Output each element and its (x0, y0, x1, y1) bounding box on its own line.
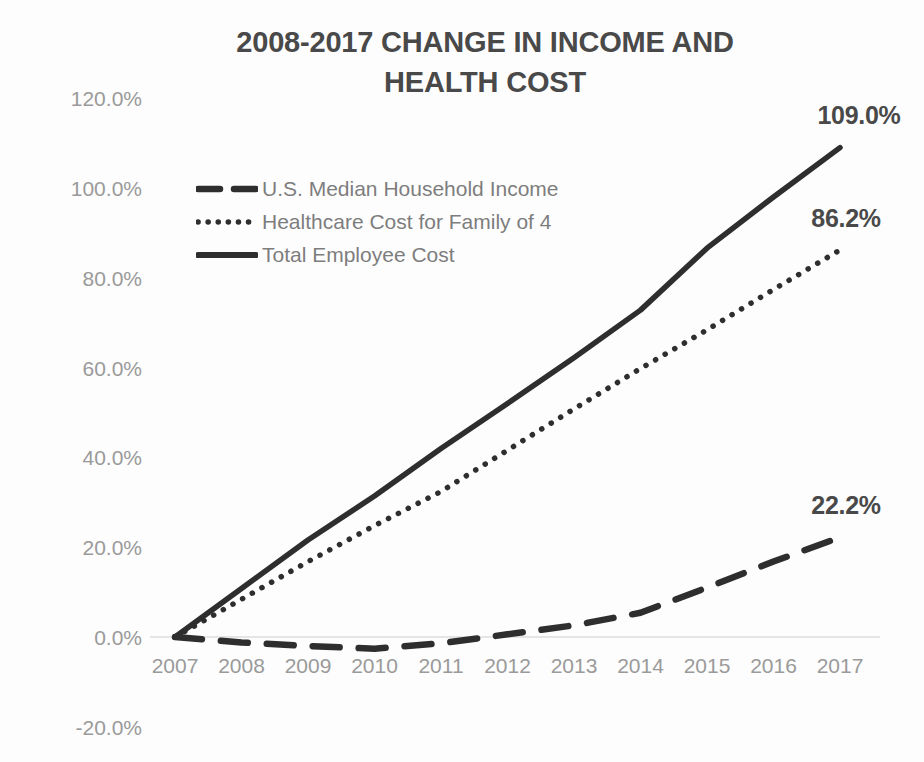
legend-swatch-solid-icon (196, 245, 258, 265)
legend-item[interactable]: Healthcare Cost for Family of 4 (196, 205, 559, 238)
legend-item[interactable]: Total Employee Cost (196, 238, 559, 271)
legend-item[interactable]: U.S. Median Household Income (196, 172, 559, 205)
legend-swatch-dotted-icon (196, 212, 258, 232)
data-value-label: 86.2% (811, 204, 880, 233)
data-value-label: 22.2% (811, 491, 880, 520)
chart-container: 2008-2017 CHANGE IN INCOME AND HEALTH CO… (0, 0, 924, 762)
legend-label: Total Employee Cost (262, 243, 455, 267)
data-value-label: 109.0% (818, 101, 901, 130)
line-median-household-income (175, 537, 840, 648)
line-healthcare-cost (175, 250, 840, 637)
legend-label: U.S. Median Household Income (262, 177, 559, 201)
plot-area (0, 0, 924, 762)
legend-swatch-dashed-icon (196, 179, 258, 199)
chart-legend: U.S. Median Household IncomeHealthcare C… (196, 172, 559, 271)
legend-label: Healthcare Cost for Family of 4 (262, 210, 551, 234)
